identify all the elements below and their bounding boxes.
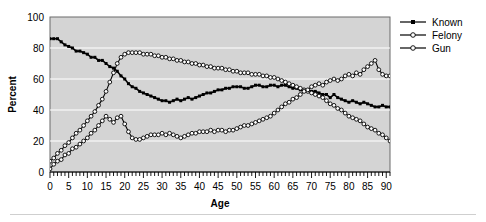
marker-known	[202, 93, 205, 96]
marker-known	[344, 99, 347, 102]
marker-gun	[164, 133, 168, 137]
marker-gun	[71, 147, 75, 151]
x-tick-label-75: 75	[325, 181, 337, 192]
marker-gun	[52, 162, 56, 166]
marker-known	[366, 102, 369, 105]
marker-known	[101, 59, 104, 62]
marker-known	[157, 98, 160, 101]
marker-felony	[63, 144, 67, 148]
marker-felony	[123, 52, 127, 56]
marker-known	[52, 37, 55, 40]
marker-gun	[317, 82, 321, 86]
marker-felony	[332, 103, 336, 107]
marker-gun	[265, 116, 269, 120]
marker-known	[153, 96, 156, 99]
y-axis-title: Percent	[7, 75, 18, 112]
marker-gun	[220, 128, 224, 132]
marker-felony	[354, 117, 358, 121]
y-tick-label-0: 0	[38, 167, 44, 178]
marker-felony	[276, 77, 280, 81]
marker-felony	[130, 51, 134, 55]
marker-gun	[89, 131, 93, 135]
marker-felony	[134, 51, 138, 55]
marker-known	[381, 104, 384, 107]
marker-gun	[127, 130, 131, 134]
marker-known	[198, 95, 201, 98]
marker-felony	[283, 80, 287, 84]
marker-gun	[183, 134, 187, 138]
marker-known	[105, 62, 108, 65]
marker-gun	[212, 130, 216, 134]
marker-felony	[216, 66, 220, 70]
x-tick-label-55: 55	[250, 181, 262, 192]
marker-gun	[142, 136, 146, 140]
marker-gun	[123, 122, 127, 126]
x-tick-label-60: 60	[269, 181, 281, 192]
marker-felony	[201, 63, 205, 67]
marker-gun	[108, 117, 112, 121]
marker-gun	[63, 153, 67, 157]
marker-known	[250, 85, 253, 88]
marker-felony	[190, 62, 194, 66]
marker-gun	[224, 130, 228, 134]
marker-felony	[227, 68, 231, 72]
marker-felony	[313, 93, 317, 97]
marker-known	[78, 50, 81, 53]
marker-felony	[56, 152, 60, 156]
marker-known	[116, 70, 119, 73]
x-tick-label-90: 90	[381, 181, 393, 192]
marker-known	[239, 85, 242, 88]
marker-felony	[280, 79, 284, 83]
marker-gun	[336, 79, 340, 83]
marker-gun	[145, 134, 149, 138]
marker-known	[49, 37, 52, 40]
marker-felony	[183, 60, 187, 64]
marker-felony	[265, 74, 269, 78]
marker-gun	[388, 74, 392, 78]
y-axis-tick-labels: 020406080100	[27, 12, 44, 178]
marker-known	[138, 90, 141, 93]
marker-known	[161, 99, 164, 102]
marker-gun	[269, 114, 273, 118]
marker-known	[254, 84, 257, 87]
marker-known	[142, 91, 145, 94]
marker-felony	[295, 85, 299, 89]
marker-gun	[366, 65, 370, 69]
marker-gun	[112, 121, 116, 125]
marker-felony	[67, 141, 71, 145]
marker-known	[265, 85, 268, 88]
marker-felony	[336, 107, 340, 111]
x-axis-title: Age	[211, 198, 230, 209]
marker-known	[243, 87, 246, 90]
marker-felony	[82, 124, 86, 128]
marker-felony	[384, 136, 388, 140]
marker-known	[359, 102, 362, 105]
marker-gun	[257, 119, 261, 123]
marker-known	[75, 50, 78, 53]
marker-gun	[160, 131, 164, 135]
x-tick-label-25: 25	[138, 181, 150, 192]
marker-gun	[384, 74, 388, 78]
marker-felony	[108, 80, 112, 84]
y-tick-label-60: 60	[33, 74, 45, 85]
marker-known	[146, 93, 149, 96]
marker-gun	[373, 59, 377, 63]
marker-gun	[242, 124, 246, 128]
marker-felony	[89, 114, 93, 118]
x-tick-label-15: 15	[100, 181, 112, 192]
marker-felony	[153, 54, 157, 58]
marker-felony	[388, 139, 392, 143]
marker-felony	[373, 128, 377, 132]
marker-gun	[115, 116, 119, 120]
x-axis: 051015202530354045505560657075808590	[47, 172, 392, 192]
y-tick-label-80: 80	[33, 43, 45, 54]
marker-felony	[97, 103, 101, 107]
marker-gun	[74, 145, 78, 149]
marker-known	[276, 85, 279, 88]
marker-felony	[246, 71, 250, 75]
marker-gun	[231, 128, 235, 132]
marker-known	[194, 96, 197, 99]
marker-felony	[85, 119, 89, 123]
marker-known	[273, 84, 276, 87]
marker-known	[332, 93, 335, 96]
